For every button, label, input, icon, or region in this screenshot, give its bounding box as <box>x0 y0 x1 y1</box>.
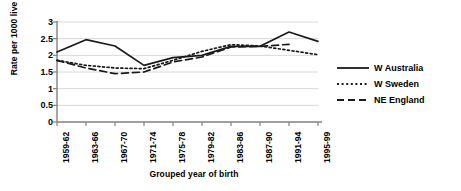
series-line-ne-england <box>57 44 289 73</box>
legend-line-swatch <box>336 79 370 89</box>
legend-item-label: W Sweden <box>374 79 419 89</box>
x-axis-title: Grouped year of birth <box>60 169 328 179</box>
legend-line-swatch <box>336 95 370 105</box>
legend-line-swatch <box>336 63 370 73</box>
legend-item[interactable]: NE England <box>336 92 461 108</box>
chart-legend: W AustraliaW SwedenNE England <box>336 60 461 108</box>
chart-container: Rate per 1000 live births2 00.511.522.53… <box>0 0 461 191</box>
legend-item[interactable]: W Sweden <box>336 76 461 92</box>
legend-item[interactable]: W Australia <box>336 60 461 76</box>
legend-item-label: W Australia <box>374 63 423 73</box>
legend-item-label: NE England <box>374 95 425 105</box>
